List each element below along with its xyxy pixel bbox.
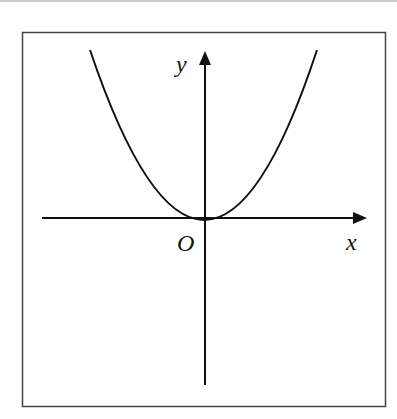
y-axis-arrow-icon [199,51,211,65]
x-axis-arrow-icon [353,212,367,224]
y-axis-label: y [174,51,187,77]
origin-label: O [177,230,194,256]
parabola-curve [90,50,317,220]
parabola-diagram: y x O [0,0,397,419]
x-axis-label: x [345,229,357,255]
